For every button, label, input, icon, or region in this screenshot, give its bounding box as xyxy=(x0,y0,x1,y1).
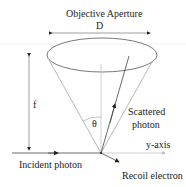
aperture-title: Objective Aperture xyxy=(66,9,142,19)
incident-photon-label: Incident photon xyxy=(19,160,82,170)
focal-point xyxy=(100,152,102,154)
focal-length-label: f xyxy=(33,100,36,110)
scattered-photon-label-1: Scattered xyxy=(128,107,165,117)
theta-label: θ xyxy=(92,119,97,129)
recoil-electron-label: Recoil electron xyxy=(122,171,183,181)
y-axis-label: y-axis xyxy=(146,140,170,150)
scattered-photon-arrow xyxy=(110,104,115,123)
aperture-diameter-label: D xyxy=(96,21,103,31)
objective-aperture-ellipse xyxy=(47,38,157,72)
cone-edge-left xyxy=(49,60,101,153)
scattered-photon-label-2: photon xyxy=(132,120,160,130)
recoil-electron-arrow xyxy=(101,153,119,162)
